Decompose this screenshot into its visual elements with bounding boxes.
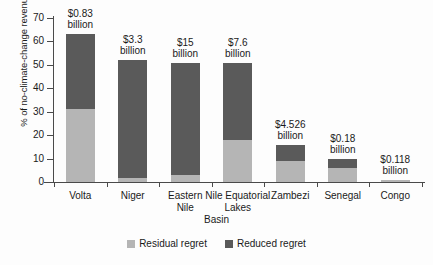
x-axis-tick [264, 182, 265, 187]
y-axis-tick-label: 40 [20, 83, 44, 93]
y-axis-tick-label: 60 [20, 36, 44, 46]
bar-volta[interactable] [66, 34, 95, 182]
legend-item[interactable]: Reduced regret [225, 238, 306, 249]
y-axis-tick-label: 70 [20, 13, 44, 23]
bar-value-label: $15billion [172, 37, 198, 59]
y-axis-tick-label: 0 [20, 177, 44, 187]
bar-segment-residual-regret [328, 168, 357, 182]
x-axis-title: Basin [0, 214, 433, 225]
bar-congo[interactable] [381, 180, 410, 182]
bar-value-label: $0.118billion [380, 154, 410, 176]
x-axis-tick [317, 182, 318, 187]
bar-segment-reduced-regret [276, 145, 305, 161]
x-axis-label-congo: Congo [361, 190, 430, 202]
bar-segment-reduced-regret [223, 63, 252, 140]
bar-value-label: $0.18billion [330, 133, 356, 155]
bar-value-label: $3.3billion [120, 34, 146, 56]
x-axis-tick [369, 182, 370, 187]
bar-segment-reduced-regret [66, 34, 95, 109]
legend-item-label: Residual regret [139, 238, 207, 249]
bar-segment-residual-regret [276, 161, 305, 182]
bar-segment-reduced-regret [118, 60, 147, 178]
x-axis-line [44, 182, 425, 183]
x-axis-tick [107, 182, 108, 187]
bar-segment-residual-regret [223, 140, 252, 182]
bar-nile-equatorial-lakes[interactable] [223, 63, 252, 182]
bar-value-label-unit: billion [120, 45, 146, 56]
legend-swatch-icon [225, 240, 233, 248]
bar-value-label-unit: billion [380, 165, 410, 176]
bar-senegal[interactable] [328, 159, 357, 182]
plot-area: $0.83billion$3.3billion$15billion$7.6bil… [53, 18, 425, 182]
bar-segment-residual-regret [381, 180, 410, 182]
y-axis-tick-label: 10 [20, 154, 44, 164]
x-axis-tick [422, 182, 423, 187]
bar-segment-residual-regret [66, 109, 95, 182]
y-axis-tick [47, 182, 53, 183]
bar-eastern-nile[interactable] [171, 63, 200, 182]
bar-value-label-unit: billion [330, 144, 356, 155]
bar-value-label-amount: $3.3 [120, 34, 146, 45]
y-axis-tick-label: 20 [20, 130, 44, 140]
x-axis-label-line2: Lakes [204, 202, 273, 214]
bar-value-label-amount: $15 [172, 37, 198, 48]
y-axis-tick-label: 50 [20, 60, 44, 70]
bar-value-label-unit: billion [172, 48, 198, 59]
y-axis-tick-label: 30 [20, 107, 44, 117]
bar-value-label-unit: billion [67, 19, 93, 30]
bar-value-label-amount: $0.18 [330, 133, 356, 144]
bar-segment-reduced-regret [328, 159, 357, 168]
legend-item[interactable]: Residual regret [127, 238, 207, 249]
x-axis-tick [212, 182, 213, 187]
x-axis-tick [159, 182, 160, 187]
bar-value-label: $7.6billion [225, 37, 251, 59]
chart-legend: Residual regretReduced regret [0, 238, 433, 249]
x-axis-tick [54, 182, 55, 187]
x-axis-label-line1: Congo [361, 190, 430, 202]
legend-swatch-icon [127, 240, 135, 248]
bar-value-label-unit: billion [225, 48, 251, 59]
bar-value-label: $0.83billion [67, 8, 93, 30]
bar-zambezi[interactable] [276, 145, 305, 182]
bar-value-label-amount: $0.83 [67, 8, 93, 19]
bar-value-label: $4.526billion [275, 119, 306, 141]
bar-value-label-amount: $7.6 [225, 37, 251, 48]
bar-niger[interactable] [118, 60, 147, 182]
bar-segment-residual-regret [171, 175, 200, 182]
bar-value-label-unit: billion [275, 130, 306, 141]
bar-segment-residual-regret [118, 178, 147, 182]
bar-segment-reduced-regret [171, 63, 200, 175]
legend-item-label: Reduced regret [237, 238, 306, 249]
bar-value-label-amount: $4.526 [275, 119, 306, 130]
stacked-bar-chart: % of no-climate-change revenues 01020304… [0, 0, 433, 265]
bar-value-label-amount: $0.118 [380, 154, 410, 165]
